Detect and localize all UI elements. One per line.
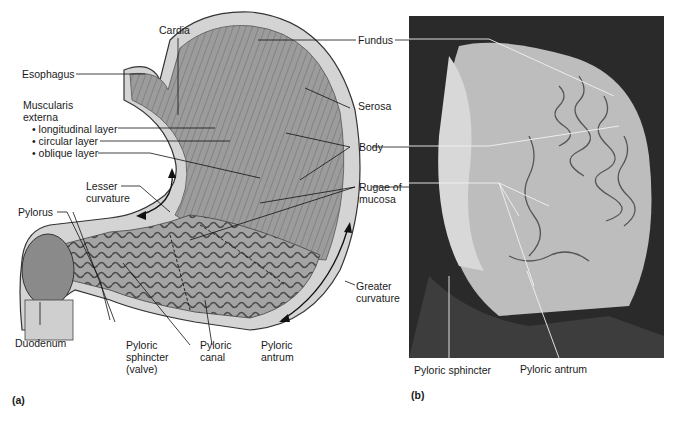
- label-lesser-curvature: Lesser: [86, 180, 118, 192]
- label-externa: externa: [23, 111, 58, 123]
- label-duodenum: Duodenum: [15, 337, 66, 349]
- label-pyloric-sphincter-2: sphincter: [126, 351, 169, 363]
- label-pyloric-antrum-2: antrum: [261, 351, 294, 363]
- label-circular-layer: • circular layer: [32, 135, 98, 147]
- label-pyloric-canal: Pyloric: [200, 339, 232, 351]
- label-body: Body: [359, 141, 383, 153]
- label-muscularis: Muscularis: [23, 99, 73, 111]
- label-photo-pyloric-antrum: Pyloric antrum: [520, 363, 587, 375]
- label-cardia: Cardia: [159, 24, 190, 36]
- label-greater-curvature-2: curvature: [356, 292, 400, 304]
- panel-a-tag: (a): [12, 394, 25, 406]
- label-greater-curvature: Greater: [356, 280, 392, 292]
- label-esophagus: Esophagus: [22, 68, 75, 80]
- label-pyloric-canal-2: canal: [200, 351, 225, 363]
- photo-leader-lines: [0, 0, 676, 421]
- label-longitudinal-layer: • longitudinal layer: [32, 123, 117, 135]
- label-oblique-layer: • oblique layer: [32, 147, 98, 159]
- label-lesser-curvature-2: curvature: [86, 192, 130, 204]
- label-pyloric-antrum: Pyloric: [261, 339, 293, 351]
- label-photo-pyloric-sphincter: Pyloric sphincter: [414, 364, 491, 376]
- label-rugae-2: mucosa: [359, 193, 396, 205]
- label-pyloric-sphincter: Pyloric: [126, 339, 158, 351]
- panel-b-tag: (b): [411, 389, 424, 401]
- label-pyloric-sphincter-3: (valve): [126, 363, 158, 375]
- label-serosa: Serosa: [358, 100, 391, 112]
- label-fundus: Fundus: [358, 34, 393, 46]
- label-rugae: Rugae of: [359, 181, 402, 193]
- label-pylorus: Pylorus: [18, 206, 53, 218]
